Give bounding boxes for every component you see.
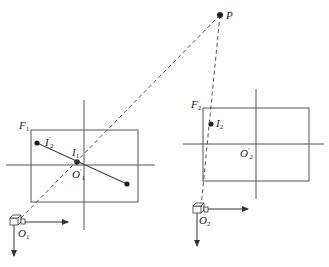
ray-camera1-to-p — [19, 15, 220, 220]
label-o1: O1 — [18, 228, 29, 241]
ray-camera2-to-p — [201, 15, 220, 207]
camera-2-lens-icon — [204, 207, 208, 212]
label-f2: F2 — [191, 99, 201, 112]
label-p: P — [226, 10, 233, 21]
label-f1: F1 — [19, 120, 29, 133]
camera-1-lens-icon — [21, 219, 25, 224]
world-point-p-dot — [217, 12, 223, 18]
label-i2-prime: I′2 — [45, 136, 54, 150]
camera-2-body-icon — [193, 206, 201, 213]
label-o2-prime: O′2 — [240, 147, 253, 161]
label-o1-prime: O′1 — [72, 168, 85, 182]
camera-1-body-icon — [10, 218, 18, 225]
point-i1-dot — [74, 159, 80, 165]
stereo-diagram-canvas — [0, 0, 329, 267]
image-plane-frame-2 — [183, 89, 324, 199]
label-o2: O2 — [199, 215, 210, 228]
label-i1: I1 — [72, 147, 79, 160]
line-end-dot — [124, 181, 129, 186]
label-i2: I2 — [216, 118, 223, 131]
point-i2-prime-dot — [34, 140, 39, 145]
